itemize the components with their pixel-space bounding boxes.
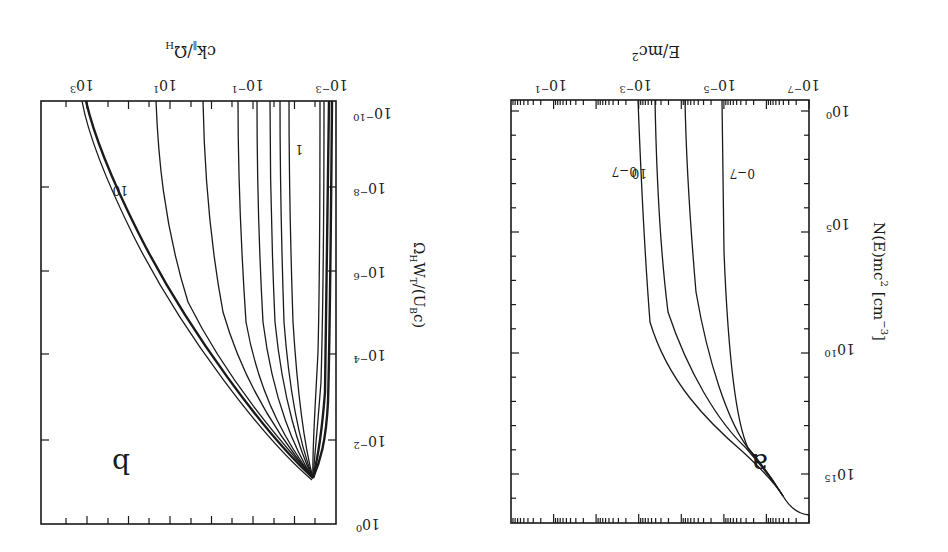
tick-label: 10−3 (619, 77, 652, 95)
panel-a: 10−7 10−5 10−3 10−1 E/mc2 100 105 1010 1… (511, 42, 890, 523)
panel-a-x-tick-labels: 10−7 10−5 10−3 10−1 (534, 77, 820, 95)
curve-b-band4 (313, 101, 320, 478)
panel-b-x-tick-labels: 10−3 10−1 101 103 (70, 77, 348, 95)
panel-a-curves (638, 100, 809, 515)
panel-b-y-ticks (41, 187, 336, 440)
panel-b-y-tick-labels: 10−10 10−8 10−6 10−4 10−2 100 (353, 105, 392, 534)
tick-label: 1015 (824, 466, 855, 484)
annotation-b-1: 1 (295, 142, 303, 156)
panel-b: 10−3 10−1 101 103 ck∥/ΩH 10−10 10−8 10−6… (41, 40, 428, 534)
tick-label: 100 (356, 516, 380, 534)
tick-label: 1010 (824, 341, 855, 359)
panel-a-xlabel: E/mc2 (632, 42, 680, 63)
curve-a-mid1 (685, 100, 783, 496)
tick-label: 10−5 (703, 77, 736, 95)
tick-label: 10−7 (787, 77, 820, 95)
tick-label: 10−6 (353, 264, 386, 282)
tick-label: 10−4 (353, 347, 386, 365)
panel-a-y-ticks (511, 111, 809, 498)
curve-b-2 (280, 101, 313, 478)
annotation-a-low: 0−7 (730, 166, 755, 180)
tick-label: 10−3 (315, 77, 348, 95)
panel-a-y-tick-labels: 100 105 1010 1015 (824, 103, 855, 484)
tick-label: 10−8 (353, 180, 386, 198)
tick-label: 10−2 (353, 433, 386, 451)
panel-b-label: b (112, 447, 130, 480)
panel-b-x-ticks (66, 101, 315, 524)
curve-a-mid2 (655, 100, 783, 496)
panel-a-label: a (751, 447, 768, 480)
tick-label: 10−1 (534, 77, 567, 95)
annotation-b-10: 10 (113, 183, 128, 197)
panel-b-ylabel: ΩHWT/(UBc) (408, 242, 428, 328)
tick-label: 103 (70, 77, 94, 95)
tick-label: 101 (153, 77, 177, 95)
panel-a-x-ticks (554, 100, 809, 523)
panel-b-curves (82, 101, 332, 480)
figure-svg: 10−7 10−5 10−3 10−1 E/mc2 100 105 1010 1… (0, 0, 948, 552)
tick-label: 10−1 (231, 77, 264, 95)
panel-a-ylabel: N(E)mc2[cm−3] (870, 222, 890, 341)
tick-label: 10−10 (353, 105, 392, 123)
curve-a-10 (638, 100, 783, 496)
curve-b-10 (86, 101, 313, 478)
tick-label: 105 (826, 216, 850, 234)
tick-label: 100 (826, 103, 850, 121)
figure-rotated: 10−7 10−5 10−3 10−1 E/mc2 100 105 1010 1… (0, 0, 948, 552)
panel-b-xlabel: ck∥/ΩH (165, 40, 216, 61)
curve-b-10b (82, 101, 312, 480)
annotation-a-high: 10 (632, 166, 647, 180)
